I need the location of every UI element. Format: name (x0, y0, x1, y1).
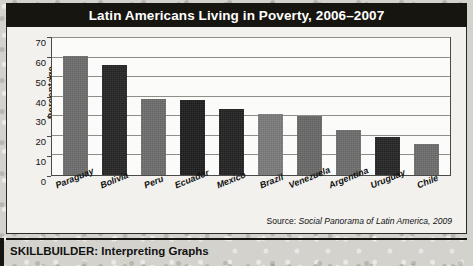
bar-bolivia (102, 65, 128, 175)
y-axis-tick-mark (47, 57, 51, 58)
x-label-slot: Bolivia (94, 179, 133, 221)
bar-series (52, 38, 450, 175)
x-axis-labels: ParaguayBoliviaPeruEcuadorMexicoBrazilVe… (51, 179, 451, 221)
chart-panel: Percentage 010203040506070 ParaguayBoliv… (6, 27, 467, 234)
y-axis-tick-mark (47, 97, 51, 98)
skillbuilder-footer: SKILLBUILDER: Interpreting Graphs (0, 238, 473, 266)
y-axis-tick-mark (47, 176, 51, 177)
x-label-slot: Paraguay (55, 179, 94, 221)
bar-brazil (258, 114, 284, 175)
plot-area (51, 37, 451, 176)
bar-slot (290, 38, 329, 175)
figure-title-bar: Latin Americans Living in Poverty, 2006–… (6, 3, 467, 27)
bar-slot (368, 38, 407, 175)
x-label-slot: Argentina (329, 179, 368, 221)
y-axis-tick-mark (47, 156, 51, 157)
source-note: Source: Social Panorama of Latin America… (266, 216, 452, 226)
bar-ecuador (180, 100, 206, 175)
bar-slot (251, 38, 290, 175)
x-label-slot: Peru (133, 179, 172, 221)
figure-title: Latin Americans Living in Poverty, 2006–… (89, 8, 385, 23)
source-label: Source: (266, 216, 298, 226)
footer-edge-bar (0, 238, 4, 266)
footer-divider (6, 238, 467, 240)
x-axis-label-peru: Peru (143, 174, 165, 191)
x-label-slot: Brazil (251, 179, 290, 221)
skillbuilder-heading: SKILLBUILDER: Interpreting Graphs (10, 245, 209, 257)
bar-chile (414, 144, 440, 175)
y-axis-tick-mark (47, 77, 51, 78)
bar-slot (95, 38, 134, 175)
x-label-slot: Chile (408, 179, 447, 221)
y-axis-tick-mark (47, 37, 51, 38)
bar-peru (141, 99, 167, 175)
bar-slot (212, 38, 251, 175)
bar-mexico (219, 109, 245, 175)
x-label-slot: Uruguay (369, 179, 408, 221)
y-axis-tick-mark (47, 136, 51, 137)
x-label-slot: Venezuela (290, 179, 329, 221)
bar-slot (134, 38, 173, 175)
bar-venezuela (297, 116, 323, 175)
y-axis-tick-mark (47, 116, 51, 117)
x-label-slot: Mexico (212, 179, 251, 221)
plot-area-wrapper: 010203040506070 (51, 37, 451, 176)
figure-container: Latin Americans Living in Poverty, 2006–… (6, 3, 467, 235)
bar-slot (407, 38, 446, 175)
bar-slot (173, 38, 212, 175)
x-label-slot: Ecuador (173, 179, 212, 221)
bar-paraguay (63, 56, 89, 175)
bar-slot (329, 38, 368, 175)
source-publication: Social Panorama of Latin America, 2009 (299, 216, 453, 226)
bar-slot (56, 38, 95, 175)
